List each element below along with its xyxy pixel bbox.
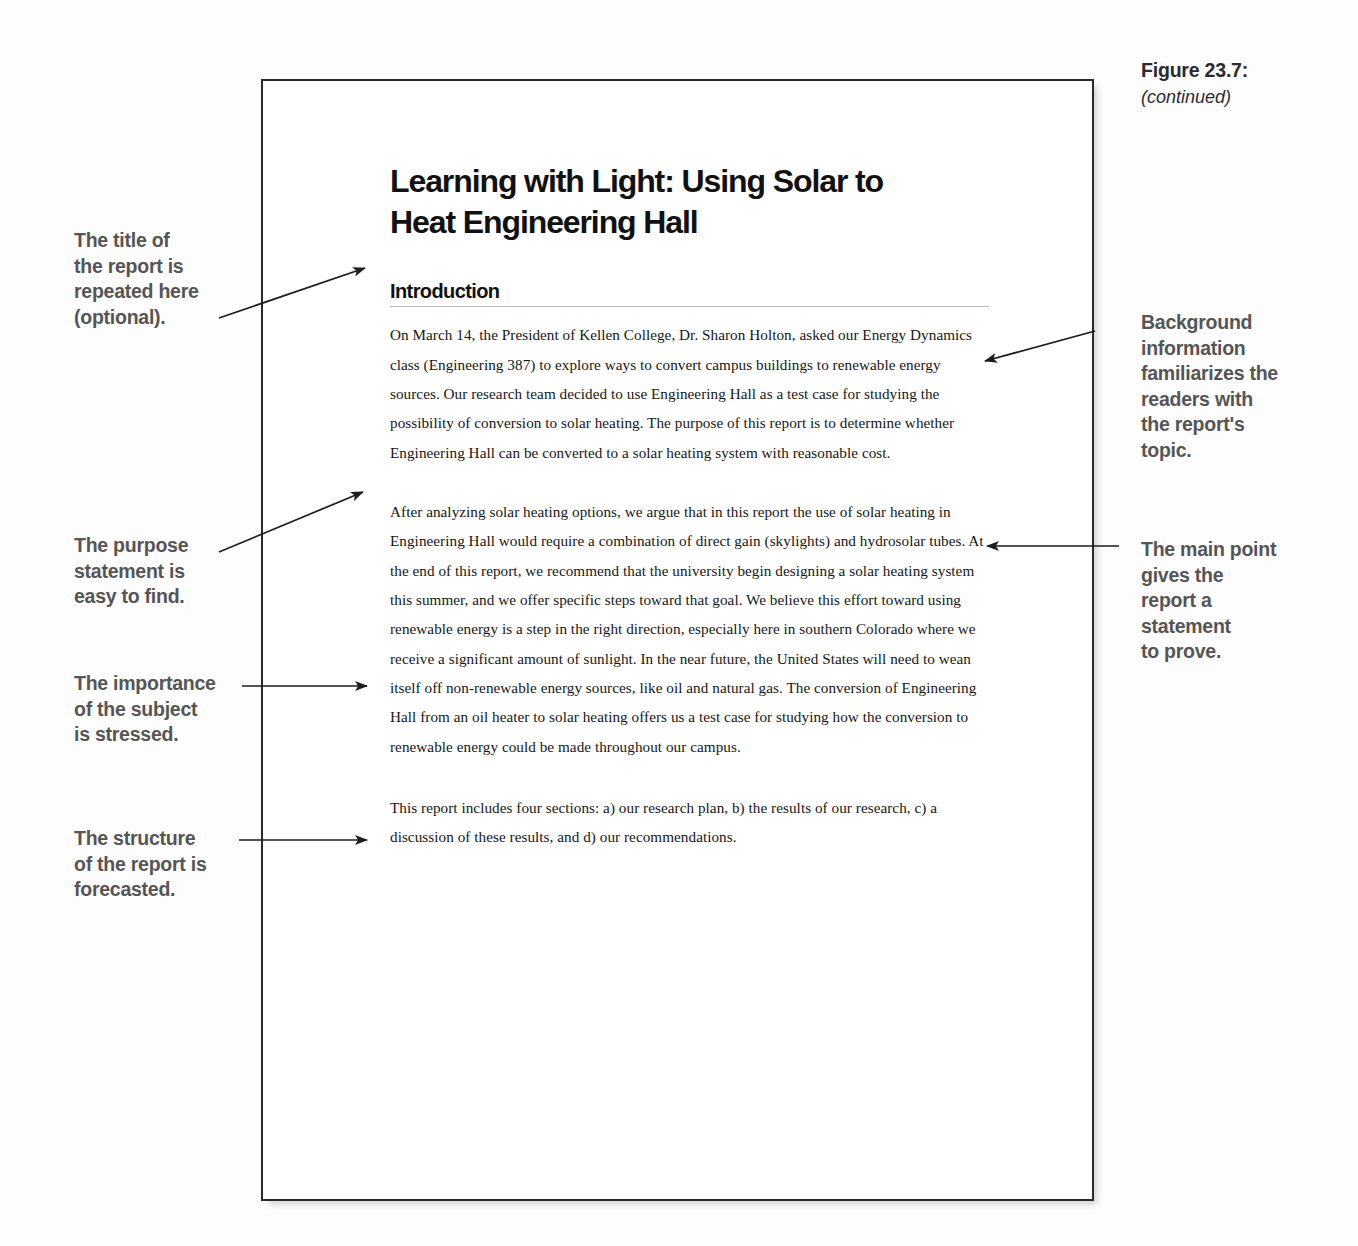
document-page: Learning with Light: Using Solar to Heat…: [261, 79, 1094, 1201]
annotation-background-info: Background information familiarizes the …: [1141, 310, 1351, 463]
figure-continued-label: (continued): [1141, 86, 1351, 110]
body-paragraph-background: On March 14, the President of Kellen Col…: [390, 320, 990, 467]
document-body: Learning with Light: Using Solar to Heat…: [390, 161, 990, 852]
body-paragraph-forecast: This report includes four sections: a) o…: [390, 793, 960, 852]
annotation-title-repeated: The title of the report is repeated here…: [74, 228, 289, 330]
section-heading-introduction: Introduction: [390, 280, 502, 303]
annotation-purpose-statement: The purpose statement is easy to find.: [74, 533, 289, 610]
figure-number-label: Figure 23.7:: [1141, 58, 1351, 84]
annotation-main-point: The main point gives the report a statem…: [1141, 537, 1351, 665]
section-rule-divider: [390, 306, 989, 307]
page-title: Learning with Light: Using Solar to Heat…: [390, 161, 950, 242]
section-heading-container: Introduction: [390, 280, 990, 310]
annotation-structure: The structure of the report is forecaste…: [74, 826, 289, 903]
figure-caption: Figure 23.7: (continued): [1141, 58, 1351, 109]
body-paragraph-main-point: After analyzing solar heating options, w…: [390, 497, 988, 761]
annotation-importance: The importance of the subject is stresse…: [74, 671, 289, 748]
